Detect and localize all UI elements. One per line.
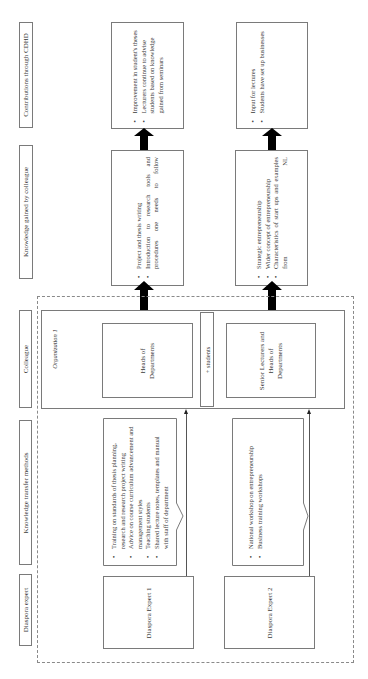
method-item: Business training workshops xyxy=(256,425,265,549)
method-item: Training on standards of thesis planning… xyxy=(110,425,127,549)
method-item: Teaching students xyxy=(144,425,153,549)
connector-line-left xyxy=(186,412,187,576)
header-contributions-label: Contributions through CDHD xyxy=(22,33,31,117)
colleague-left-label: Heads of Departments xyxy=(139,331,157,391)
contributions-box-left: Improvement in student's theses Lecturer… xyxy=(111,22,184,129)
knowledge-box-left: Project and thesis writing Introduction … xyxy=(111,150,184,286)
knowledge-item: Strategic entrepreneurship xyxy=(254,157,263,269)
connector-line-right xyxy=(309,412,310,576)
knowledge-item: Project and thesis writing xyxy=(135,157,144,269)
arrowhead-icon xyxy=(184,409,188,414)
arrow-up-icon xyxy=(262,128,282,152)
knowledge-list-right: Strategic entrepreneurship Wider concept… xyxy=(254,157,288,279)
knowledge-item: Wider concept of entrepreneurship xyxy=(263,157,272,269)
contribution-item: Input for lectures xyxy=(249,28,258,113)
header-colleague-label: Colleague xyxy=(21,345,30,373)
arrow-up-icon xyxy=(134,128,154,152)
expert-box-1: Diaspora Expert 1 xyxy=(103,576,194,649)
header-knowledge-gained: Knowledge gained by colleague xyxy=(19,145,33,279)
method-item: National workshop on entrepreneurship xyxy=(247,425,256,549)
expert-box-2: Diaspora Expert 2 xyxy=(224,576,315,649)
methods-list-left: Training on standards of thesis planning… xyxy=(110,425,170,559)
header-transfer-methods: Knowledge transfer methods xyxy=(19,420,32,565)
arrowhead-icon xyxy=(307,409,311,414)
contribution-item: Lecturers continue to advise students ba… xyxy=(139,28,165,113)
header-diaspora-expert: Diaspora expert xyxy=(19,574,32,646)
contributions-list-right: Input for lectures Students have set up … xyxy=(249,28,266,123)
knowledge-list-left: Project and thesis writing Introduction … xyxy=(135,157,161,279)
colleague-box-right: Senior Lecturers and Heads of Department… xyxy=(226,323,316,398)
colleague-box-left: Heads of Departments xyxy=(102,323,193,398)
methods-list-left-wrap: Training on standards of thesis planning… xyxy=(103,418,177,566)
header-transfer-methods-label: Knowledge transfer methods xyxy=(21,452,30,533)
contribution-item: Improvement in student's theses xyxy=(130,28,139,113)
organization-label: Organization 1 xyxy=(50,329,59,368)
header-colleague: Colleague xyxy=(19,310,32,408)
header-diaspora-expert-label: Diaspora expert xyxy=(21,588,30,633)
colleague-right-label: Senior Lecturers and Heads of Department… xyxy=(258,330,285,392)
method-item: Shared lecture notes, templates and manu… xyxy=(153,425,170,549)
method-item: Advice on course curriculum advancement … xyxy=(127,425,144,549)
plus-students-label: + students xyxy=(203,346,212,373)
plus-students-box: + students xyxy=(200,312,214,407)
expert-1-label: Diaspora Expert 1 xyxy=(144,587,153,638)
contributions-list-left: Improvement in student's theses Lecturer… xyxy=(130,28,164,123)
header-knowledge-gained-label: Knowledge gained by colleague xyxy=(22,167,31,257)
knowledge-item: Characteristics of start ups and example… xyxy=(272,157,289,269)
methods-list-right: National workshop on entrepreneurship Bu… xyxy=(247,425,264,559)
contribution-item: Students have set up businesses xyxy=(258,28,267,113)
knowledge-box-right: Strategic entrepreneurship Wider concept… xyxy=(235,150,308,286)
knowledge-item: Introduction to research tools and proce… xyxy=(143,157,160,269)
header-contributions: Contributions through CDHD xyxy=(19,22,33,128)
expert-2-label: Diaspora Expert 2 xyxy=(265,587,274,638)
contributions-box-right: Input for lectures Students have set up … xyxy=(236,22,308,129)
methods-list-right-wrap: National workshop on entrepreneurship Bu… xyxy=(232,418,304,566)
